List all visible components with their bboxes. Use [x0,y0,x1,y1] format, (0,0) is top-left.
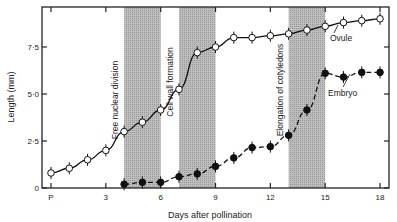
ovule-point [139,119,146,126]
embryo-point [377,69,384,76]
embryo-point [304,107,311,114]
ovule-label: Ovule [330,33,352,43]
ovule-point [66,165,73,172]
region-label: Elongation of cotyledons [275,44,285,137]
ovule-point [304,27,311,34]
embryo-point [322,70,329,77]
x-tick-label: P [48,193,53,202]
embryo-point [358,69,365,76]
y-tick-label: 7·5 [27,43,39,52]
ovule-point [340,19,347,26]
y-tick-label: 5·0 [27,90,39,99]
embryo-point [139,179,146,186]
x-axis-label: Days after pollination [168,210,252,220]
ovule-point [285,31,292,38]
ovule-point [377,15,384,22]
embryo-point [267,143,274,150]
ovule-point [121,128,128,135]
embryo-point [157,179,164,186]
ovule-point [48,170,55,177]
embryo-point [340,74,347,81]
embryo-point [176,173,183,180]
shaded-regions: Free nuclear divisionCell wall formation… [110,7,325,188]
ovule-point [103,147,110,154]
x-tick-label: 18 [376,193,385,202]
y-tick-label: 2·5 [27,137,39,146]
shaded-region [124,7,161,188]
embryo-point [231,155,238,162]
ovule-point [176,86,183,93]
ovule-point [157,107,164,114]
ovule-point [231,34,238,41]
embryo-point [121,181,128,188]
shaded-region [179,7,216,188]
ovule-point [358,17,365,24]
ovule-point [212,44,219,51]
embryo-point [194,171,201,178]
ovule-point [322,23,329,30]
embryo-point [285,132,292,139]
ovule-point [249,34,256,41]
ovule-point [84,157,91,164]
region-label: Free nuclear division [110,61,120,140]
embryo-label: Embryo [328,88,358,98]
x-tick-label: 15 [321,193,330,202]
embryo-point [249,144,256,151]
y-axis-label: Length (mm) [6,71,16,122]
ovule-point [267,32,274,39]
x-tick-label: 3 [104,193,109,202]
y-tick-label: 0 [35,184,40,193]
annotations: OvuleEmbryo [328,25,358,98]
embryo-point [212,163,219,170]
x-tick-label: 9 [213,193,218,202]
ovule-point [194,49,201,56]
x-tick-label: 6 [158,193,163,202]
x-tick-label: 12 [266,193,275,202]
chart: Free nuclear divisionCell wall formation… [0,0,397,222]
